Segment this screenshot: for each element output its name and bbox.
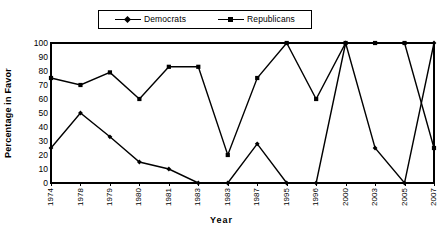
x-axis-tick-label-text: 2000	[342, 188, 350, 206]
y-axis-tick-label: 30	[18, 137, 48, 146]
x-axis-tick-label: 1979	[96, 186, 124, 214]
y-axis-tick-label: 50	[18, 109, 48, 118]
x-axis-tick-label: 1983	[214, 186, 242, 214]
x-axis-tick-label: 2007	[420, 186, 443, 214]
y-axis-tick-label: 20	[18, 151, 48, 160]
y-axis-tick-label: 90	[18, 53, 48, 62]
y-axis-tick-label: 60	[18, 95, 48, 104]
data-point-marker	[78, 83, 82, 87]
x-axis-tick-label: 1996	[302, 186, 330, 214]
x-axis-tick-label-text: 1983	[224, 188, 232, 206]
data-point-marker	[137, 97, 141, 101]
x-axis-tick-label-text: 1978	[76, 188, 84, 206]
data-point-marker	[402, 41, 406, 45]
legend-label-republicans: Republicans	[247, 15, 295, 24]
legend-line-sample-democrats	[115, 15, 141, 25]
x-axis-tick-label-text: 1979	[106, 188, 114, 206]
x-axis-tick-label: 2000	[332, 186, 360, 214]
x-axis-tick-label-text: 2003	[371, 188, 379, 206]
x-axis-tick-label: 2003	[361, 186, 389, 214]
x-axis-tick-label-text: 1981	[165, 188, 173, 206]
data-point-marker	[255, 76, 259, 80]
data-point-marker	[196, 65, 200, 69]
x-axis-tick-label-text: 1996	[312, 188, 320, 206]
data-point-marker	[432, 41, 437, 46]
data-point-marker	[167, 65, 171, 69]
y-axis-tick-label: 80	[18, 67, 48, 76]
y-axis-tick-label: 70	[18, 81, 48, 90]
x-axis-tick-label: 1980	[125, 186, 153, 214]
line-chart: Democrats Republicans Percentage in Favo…	[0, 0, 443, 236]
data-point-marker	[314, 97, 318, 101]
series-line-democrats	[51, 43, 434, 183]
x-axis-tick-label-text: 1974	[47, 188, 55, 206]
x-axis-tick-label-text: 2007	[430, 188, 438, 206]
x-axis-tick-label: 1983	[184, 186, 212, 214]
y-axis-tick-label: 10	[18, 165, 48, 174]
legend-entry-republicans: Republicans	[218, 11, 295, 28]
chart-legend: Democrats Republicans	[98, 10, 312, 29]
data-point-marker	[344, 41, 348, 45]
x-axis-tick-label-text: 1987	[253, 188, 261, 206]
legend-label-democrats: Democrats	[144, 15, 186, 24]
y-axis-tick-label: 100	[18, 39, 48, 48]
y-axis-tick-label: 40	[18, 123, 48, 132]
data-point-marker	[432, 146, 436, 150]
data-point-marker	[226, 153, 230, 157]
x-axis-tick-label: 1981	[155, 186, 183, 214]
x-axis-tick-label: 1995	[273, 186, 301, 214]
y-axis-title-text: Percentage in Favor	[3, 68, 13, 158]
legend-line-sample-republicans	[218, 15, 244, 25]
x-axis-tick-label: 1978	[66, 186, 94, 214]
y-axis-tick-labels: 1009080706050403020100	[14, 42, 48, 184]
x-axis-tick-label-text: 1995	[283, 188, 291, 206]
diamond-marker-icon	[124, 15, 131, 22]
plot-area	[50, 42, 435, 184]
x-axis-tick-label: 1974	[37, 186, 65, 214]
x-axis-tick-label-text: 1980	[135, 188, 143, 206]
x-axis-tick-label-text: 1983	[194, 188, 202, 206]
x-axis-tick-label: 1987	[243, 186, 271, 214]
x-axis-tick-labels: 1974197819791980198119831983198719951996…	[50, 186, 435, 214]
data-series-layer	[50, 42, 435, 184]
x-axis-title: Year	[0, 215, 443, 225]
data-point-marker	[49, 76, 53, 80]
data-point-marker	[166, 167, 171, 172]
data-point-marker	[108, 70, 112, 74]
data-point-marker	[373, 41, 377, 45]
legend-entry-democrats: Democrats	[115, 11, 186, 28]
x-axis-tick-label-text: 2005	[401, 188, 409, 206]
series-line-republicans	[51, 43, 434, 155]
x-axis-tick-label: 2005	[391, 186, 419, 214]
data-point-marker	[285, 41, 289, 45]
square-marker-icon	[228, 17, 233, 22]
